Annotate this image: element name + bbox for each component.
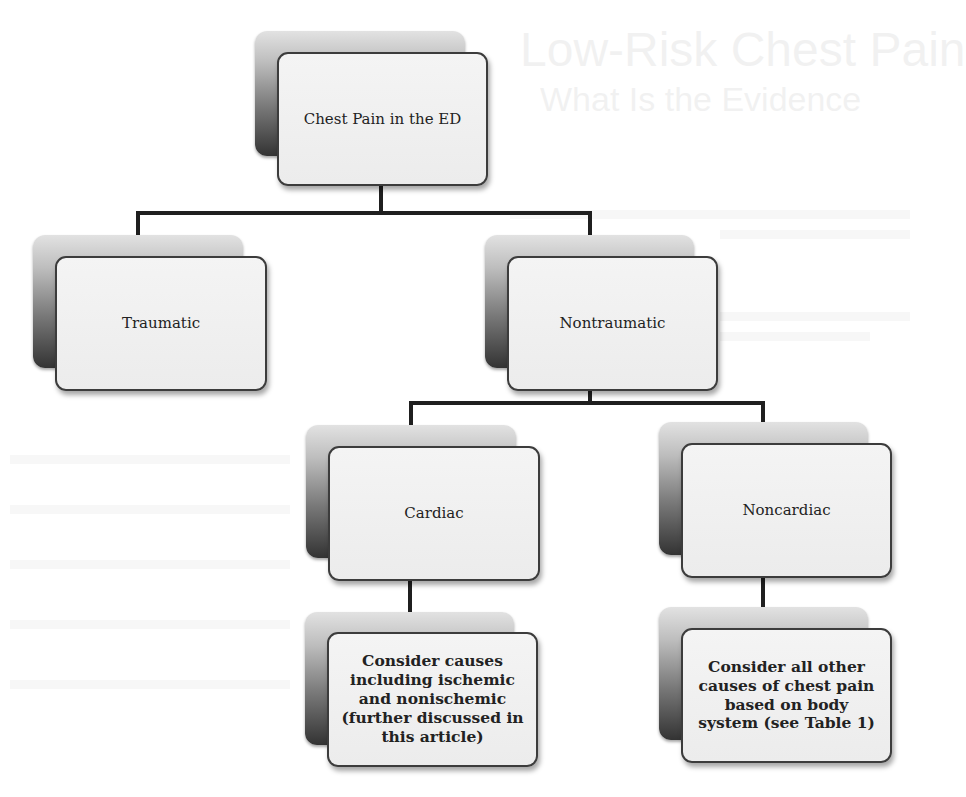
background-subtitle-bleedthrough: What Is the Evidence bbox=[540, 80, 861, 119]
connector-level1-horizontal bbox=[136, 211, 592, 215]
node-label: Nontraumatic bbox=[559, 314, 665, 332]
node-box: Consider causes including ischemic and n… bbox=[327, 632, 538, 767]
node-label: Chest Pain in the ED bbox=[304, 110, 462, 128]
connector-cardiac-to-causes bbox=[408, 580, 412, 614]
background-text-line bbox=[10, 505, 290, 514]
background-text-line bbox=[10, 620, 290, 629]
background-text-line bbox=[10, 455, 290, 464]
node-label: Traumatic bbox=[122, 314, 200, 332]
node-label: Consider all other causes of chest pain … bbox=[693, 658, 880, 734]
background-text-line bbox=[720, 230, 910, 239]
background-text-line bbox=[10, 680, 290, 689]
node-box: Consider all other causes of chest pain … bbox=[681, 628, 892, 763]
background-title-bleedthrough: Low-Risk Chest Pain bbox=[520, 22, 966, 77]
background-text-line bbox=[720, 332, 870, 341]
node-box: Cardiac bbox=[328, 446, 540, 581]
node-box: Nontraumatic bbox=[507, 256, 718, 391]
node-label: Cardiac bbox=[404, 504, 463, 522]
node-box: Traumatic bbox=[55, 256, 267, 391]
node-box: Noncardiac bbox=[681, 443, 892, 578]
connector-to-nontraumatic bbox=[588, 211, 592, 237]
connector-level2-horizontal bbox=[409, 401, 765, 405]
connector-root-down bbox=[379, 185, 383, 214]
connector-to-cardiac bbox=[409, 401, 413, 427]
node-label: Consider causes including ischemic and n… bbox=[339, 652, 526, 747]
node-box: Chest Pain in the ED bbox=[277, 52, 488, 186]
background-text-line bbox=[10, 560, 290, 569]
connector-noncardiac-to-causes bbox=[761, 576, 765, 609]
background-text-line bbox=[720, 312, 910, 321]
connector-to-traumatic bbox=[136, 211, 140, 237]
node-label: Noncardiac bbox=[742, 501, 830, 519]
